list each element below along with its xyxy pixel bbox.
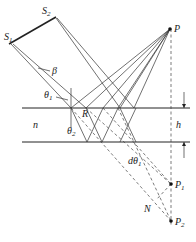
h-arrowhead-top: [182, 104, 186, 108]
label-S2: S2: [42, 5, 51, 18]
label-theta2: θ2: [67, 125, 76, 138]
label-P1: P1: [174, 179, 185, 192]
beta-leader: [38, 68, 50, 71]
refract-2: [86, 108, 102, 142]
label-h: h: [176, 119, 181, 130]
label-N: N: [143, 203, 152, 214]
ray-s2-b: [57, 18, 134, 108]
label-beta: β: [51, 65, 57, 76]
bottom-reflect-2: [102, 108, 118, 142]
label-n: n: [33, 119, 38, 130]
perpendicular-N: [156, 184, 171, 200]
reflect-2: [86, 29, 170, 108]
label-R: R: [81, 108, 88, 119]
label-S1: S1: [4, 31, 13, 44]
bottom-reflect-1: [87, 108, 103, 142]
label-P: P: [173, 23, 180, 34]
point-P: [168, 27, 172, 31]
theta1-leader: [56, 97, 68, 100]
virtual-ray-1: [71, 108, 171, 221]
virtual-ray-3: [103, 108, 171, 184]
point-P2: [169, 219, 173, 223]
source-segment: [9, 17, 56, 44]
label-dtheta1: dθ1: [128, 155, 141, 168]
exit-ray-1: [103, 29, 170, 108]
thin-film-diagram: S1 S2 P P1 P2 n h β θ1 θ2 R dθ1 N: [0, 0, 196, 242]
reflect-4: [134, 29, 170, 108]
exit-ray-2: [118, 29, 170, 108]
h-arrowhead-bottom: [182, 142, 186, 146]
point-P1: [169, 182, 173, 186]
label-theta1: θ1: [44, 89, 52, 102]
label-P2: P2: [174, 216, 185, 229]
virtual-ray-2: [86, 108, 171, 184]
reflect-1: [71, 29, 170, 108]
